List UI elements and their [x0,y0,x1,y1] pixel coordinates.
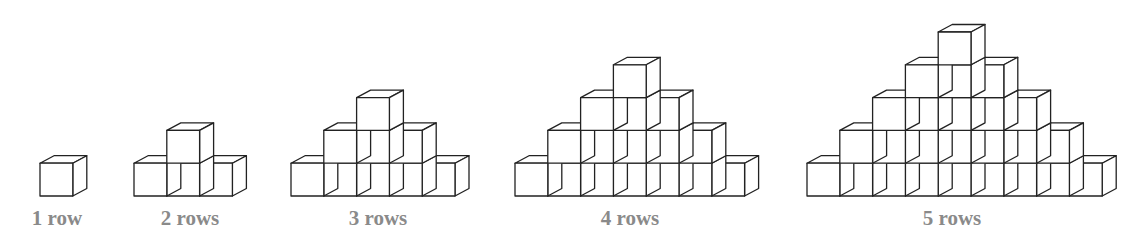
label-3-rows: 3 rows [349,206,408,231]
cube [167,123,214,163]
cube [40,156,87,196]
cube [357,90,404,130]
label-2-rows: 2 rows [161,206,220,231]
cube [938,25,985,65]
pyramid-4-rows [515,57,759,196]
pyramid-3-rows [291,90,469,196]
pyramid-2-rows [134,123,246,196]
pyramid-1-rows [40,156,87,196]
label-5-rows: 5 rows [923,206,982,231]
pyramid-5-rows [807,25,1116,197]
label-1-row: 1 row [32,206,82,231]
label-4-rows: 4 rows [601,206,660,231]
cube [613,57,660,97]
